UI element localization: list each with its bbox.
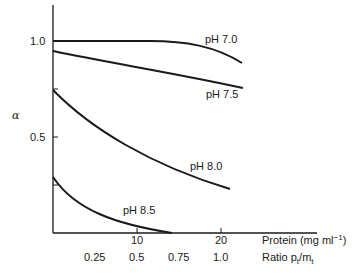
y-tick-label-1: 1.0 xyxy=(30,35,45,47)
y-tick-label-05: 0.5 xyxy=(30,131,45,143)
series-ph-8-0-line xyxy=(53,90,230,189)
x2-tick-label-10: 1.0 xyxy=(213,251,228,263)
series-ph-7-5-line xyxy=(53,51,243,88)
x-tick-label-10: 10 xyxy=(131,234,143,246)
chart-canvas: 1.0 0.5 α pH 7.0 pH 7.5 pH 8.0 pH 8.5 10… xyxy=(0,0,361,275)
series-label-ph-7-0: pH 7.0 xyxy=(205,33,237,45)
x-axis-title: Protein (mg ml−1) xyxy=(262,233,346,246)
x-axis-title-main: Protein (mg ml xyxy=(262,234,334,246)
x2-tick-label-05: 0.5 xyxy=(129,251,144,263)
x2-tick-label-075: 0.75 xyxy=(168,251,189,263)
series-label-ph-8-5: pH 8.5 xyxy=(123,204,155,216)
x-tick-label-20: 20 xyxy=(215,234,227,246)
x2-axis-title-mid: /m xyxy=(299,251,311,263)
series-label-ph-8-0: pH 8.0 xyxy=(190,160,222,172)
x2-tick-label-025: 0.25 xyxy=(84,251,105,263)
x2-axis-title-main: Ratio p xyxy=(262,251,297,263)
y-axis-label: α xyxy=(12,109,20,122)
series-label-ph-7-5: pH 7.5 xyxy=(206,88,238,100)
x2-axis-title: Ratio pt/mt xyxy=(262,251,314,266)
x2-axis-title-sub2: t xyxy=(311,257,314,266)
x-axis-title-close: ) xyxy=(343,234,347,246)
